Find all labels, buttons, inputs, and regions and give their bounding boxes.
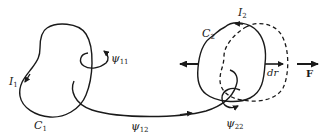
- label-psi22: ψ22: [226, 118, 244, 131]
- label-c2: C2: [202, 28, 215, 41]
- label-psi11: ψ11: [111, 53, 129, 66]
- label-c1: C1: [34, 120, 47, 133]
- label-i2: I2: [238, 7, 247, 20]
- flux-curl-psi22: [222, 88, 240, 107]
- label-dr: dr: [267, 68, 278, 78]
- diagram-canvas: I1 C1 ψ11 ψ12 C2 I2 ψ22 dr F: [0, 0, 327, 138]
- label-force: F: [306, 69, 313, 79]
- current-arrow-i2: [235, 24, 243, 25]
- label-i1: I1: [9, 76, 18, 89]
- loop-c1: [20, 24, 92, 117]
- flux-curl-psi11: [81, 51, 109, 68]
- flux-line-psi12: [73, 70, 238, 117]
- label-psi12: ψ12: [131, 121, 149, 134]
